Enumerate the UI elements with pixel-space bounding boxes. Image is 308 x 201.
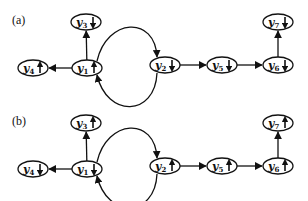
node-y7: y7 (263, 14, 293, 30)
edge-y1-to-y3 (86, 132, 87, 161)
panel-a: (a)y1y2y3y4y5y6y7 (12, 13, 293, 107)
node-y1: y1 (72, 60, 102, 76)
node-y6: y6 (263, 158, 293, 174)
panel-label: (b) (12, 114, 26, 128)
node-y3: y3 (71, 115, 101, 131)
node-y1: y1 (72, 161, 102, 177)
edge-y2-to-y1 (97, 174, 157, 201)
panel-b: (b)y1y2y3y4y5y6y7 (12, 114, 293, 201)
node-y5: y5 (207, 158, 237, 174)
node-y2: y2 (150, 57, 180, 73)
edge-y1-to-y3 (86, 31, 87, 60)
node-y4: y4 (18, 161, 48, 177)
node-y7: y7 (263, 115, 293, 131)
edge-y2-to-y1 (97, 73, 157, 107)
node-y5: y5 (207, 57, 237, 73)
node-y6: y6 (263, 57, 293, 73)
node-y4: y4 (18, 60, 48, 76)
edge-y1-to-y2 (97, 128, 157, 162)
causal-graph-diagram: (a)y1y2y3y4y5y6y7(b)y1y2y3y4y5y6y7 (0, 0, 308, 201)
edge-y1-to-y2 (97, 27, 157, 61)
node-y2: y2 (150, 158, 180, 174)
panel-label: (a) (12, 13, 25, 27)
node-y3: y3 (71, 14, 101, 30)
diagram-canvas: (a)y1y2y3y4y5y6y7(b)y1y2y3y4y5y6y7 (0, 0, 308, 201)
